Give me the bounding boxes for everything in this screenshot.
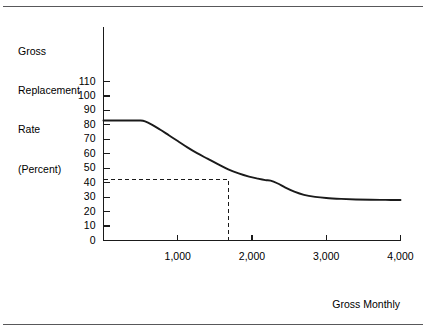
y-tick-label: 110 (66, 75, 96, 87)
x-tick-label: 1,000 (148, 250, 208, 262)
y-tick-label: 10 (66, 219, 96, 231)
plot-area (0, 0, 426, 336)
x-tick-label: 4,000 (371, 250, 426, 262)
axes-group (104, 27, 401, 241)
y-tick-label: 0 (66, 234, 96, 246)
y-tick-label: 100 (66, 89, 96, 101)
data-series-group (104, 120, 401, 200)
y-tick-label: 30 (66, 190, 96, 202)
y-tick-label: 80 (66, 118, 96, 130)
y-tick-label: 90 (66, 103, 96, 115)
x-tick-label: 3,000 (296, 250, 356, 262)
y-tick-label: 50 (66, 161, 96, 173)
y-tick-label: 60 (66, 147, 96, 159)
x-tick-label: 2,000 (222, 250, 282, 262)
y-tick-label: 40 (66, 176, 96, 188)
y-tick-label: 20 (66, 205, 96, 217)
guide-lines-group (104, 179, 229, 240)
data-line (104, 120, 401, 200)
y-tick-label: 70 (66, 132, 96, 144)
figure-container: Gross Replacement Rate (Percent) Gross M… (0, 0, 426, 336)
